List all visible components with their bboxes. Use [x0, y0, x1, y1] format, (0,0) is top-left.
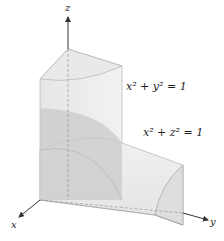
y-axis [183, 213, 208, 220]
y-axis-label: y [210, 216, 216, 227]
diagram-canvas [0, 0, 224, 241]
x-axis-label: x [11, 219, 17, 230]
z-axis-label: z [65, 2, 70, 13]
x-axis [19, 200, 40, 217]
equation-vertical-cylinder: x² + y² = 1 [126, 80, 187, 93]
equation-horizontal-cylinder: x² + z² = 1 [143, 126, 203, 139]
